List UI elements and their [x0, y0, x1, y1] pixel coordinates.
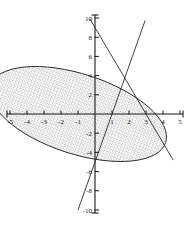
- x-tick-label: -5: [7, 118, 13, 126]
- y-tick-label: 8: [89, 34, 93, 42]
- x-tick-label: 2: [127, 118, 131, 126]
- y-tick-label: 2: [89, 91, 93, 99]
- x-tick-label: -3: [41, 118, 47, 126]
- x-tick-label: -2: [58, 118, 64, 126]
- y-tick-label: -2: [86, 130, 92, 138]
- x-tick-label: -4: [24, 118, 30, 126]
- chart-canvas: -5-4-3-2-112345-10-8-6-4-2246810: [0, 0, 185, 231]
- x-tick-label: 5: [178, 118, 182, 126]
- x-tick-label: 3: [144, 118, 148, 126]
- x-tick-label: 1: [110, 118, 114, 126]
- x-tick-label: 4: [161, 118, 165, 126]
- axis-lines: [7, 15, 183, 213]
- y-tick-label: -10: [83, 207, 93, 215]
- plot-svg: -5-4-3-2-112345-10-8-6-4-2246810: [0, 0, 185, 231]
- y-tick-label: 6: [89, 53, 93, 61]
- y-tick-label: 4: [89, 72, 93, 80]
- y-tick-label: -4: [86, 149, 92, 157]
- x-tick-label: -1: [75, 118, 81, 126]
- y-tick-label: -8: [86, 187, 92, 195]
